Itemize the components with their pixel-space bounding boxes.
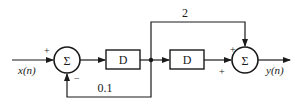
delay2-block: D bbox=[170, 50, 204, 69]
sum2-left-sign: + bbox=[219, 66, 225, 77]
sum1-node: Σ bbox=[54, 47, 80, 73]
feedforward-gain-label: 2 bbox=[182, 6, 188, 20]
sum2-symbol: Σ bbox=[242, 54, 249, 68]
sum1-input-sign: + bbox=[44, 45, 50, 56]
sum2-node: Σ bbox=[232, 47, 258, 73]
feedback-gain-label: 0.1 bbox=[98, 81, 113, 95]
delay1-block: D bbox=[106, 50, 140, 69]
input-label: x(n) bbox=[17, 64, 36, 77]
sum1-symbol: Σ bbox=[64, 54, 71, 68]
sum1-feedback-sign: − bbox=[74, 73, 80, 84]
block-diagram: x(n) + Σ − D D + 2 + Σ y(n) 0.1 bbox=[0, 0, 293, 106]
delay2-label: D bbox=[183, 53, 192, 67]
delay1-label: D bbox=[119, 53, 128, 67]
output-label: y(n) bbox=[265, 64, 284, 77]
